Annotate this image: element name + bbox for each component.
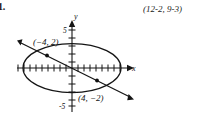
y-axis-label: y — [73, 12, 78, 21]
point-marker-upper-left — [45, 54, 49, 58]
y-axis-arrowhead — [69, 20, 75, 27]
x-axis-label: x — [131, 64, 136, 73]
point-label-lower-right: (4, −2) — [78, 93, 104, 103]
figure-page: 1. (12-2, 9-3) — [0, 0, 201, 116]
y-tick-label-5: 5 — [63, 26, 67, 35]
line-arrowhead-left — [17, 39, 23, 45]
coordinate-graph: x y 5 -5 (−4, 2) (4, −2) — [0, 0, 201, 116]
point-label-upper-left: (−4, 2) — [33, 37, 59, 47]
point-marker-lower-right — [95, 79, 99, 83]
y-tick-label-minus-5: -5 — [59, 102, 65, 111]
line-arrowhead-right — [127, 94, 134, 100]
